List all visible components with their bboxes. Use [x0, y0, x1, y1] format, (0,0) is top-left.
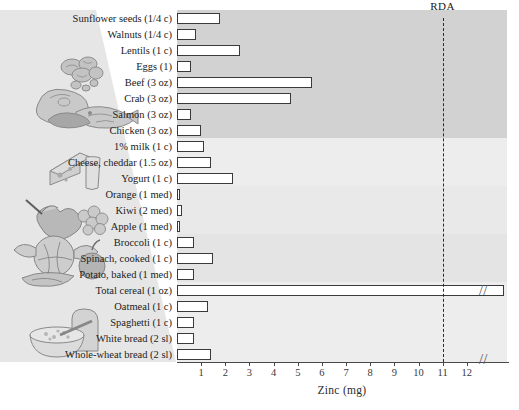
band-vegetables	[177, 234, 507, 282]
x-axis	[177, 362, 509, 363]
category-label: Orange (1 med)	[106, 189, 172, 200]
bar	[177, 93, 291, 104]
category-label: Potato, baked (1 med)	[79, 269, 172, 280]
bar	[177, 61, 191, 72]
x-tick-label: 8	[368, 367, 373, 378]
bar	[177, 221, 180, 232]
rda-line	[443, 18, 444, 362]
category-label: Oatmeal (1 c)	[114, 301, 172, 312]
category-label: Broccoli (1 c)	[114, 237, 172, 248]
bar	[177, 125, 201, 136]
category-label: Beef (3 oz)	[125, 77, 172, 88]
x-tick	[322, 362, 323, 366]
category-label: Salmon (3 oz)	[113, 109, 173, 120]
category-label: 1% milk (1 c)	[114, 141, 172, 152]
plot-area: // RDA 123456789101112 Zinc (mg) //	[177, 10, 507, 362]
x-tick-label: 12	[462, 367, 473, 378]
bar	[177, 301, 208, 312]
category-label: Apple (1 med)	[111, 221, 172, 232]
x-tick-label: 2	[223, 367, 228, 378]
zinc-content-chart: Sunflower seeds (1/4 c)Walnuts (1/4 c)Le…	[0, 0, 519, 410]
bar	[177, 333, 194, 344]
category-label: White bread (2 sl)	[96, 333, 172, 344]
bar	[177, 141, 204, 152]
rda-label: RDA	[430, 0, 455, 12]
bar	[177, 173, 233, 184]
category-label: Spinach, cooked (1 c)	[80, 253, 172, 264]
category-labels: Sunflower seeds (1/4 c)Walnuts (1/4 c)Le…	[0, 10, 175, 362]
category-label: Kiwi (2 med)	[115, 205, 172, 216]
bar	[177, 285, 504, 296]
bar	[177, 29, 196, 40]
x-tick-label: 7	[343, 367, 348, 378]
category-label: Sunflower seeds (1/4 c)	[73, 13, 172, 24]
x-tick	[298, 362, 299, 366]
band-fruits	[177, 186, 507, 234]
x-tick-label: 9	[392, 367, 397, 378]
category-label: Cheese, cheddar (1.5 oz)	[68, 157, 172, 168]
x-tick	[467, 362, 468, 366]
category-label: Walnuts (1/4 c)	[108, 29, 172, 40]
bar	[177, 317, 194, 328]
x-tick-label: 6	[319, 367, 324, 378]
bar	[177, 13, 220, 24]
category-label: Chicken (3 oz)	[110, 125, 172, 136]
band-protein-foods	[177, 10, 507, 138]
bar	[177, 189, 180, 200]
x-tick	[225, 362, 226, 366]
x-tick-label: 3	[247, 367, 252, 378]
category-label: Crab (3 oz)	[124, 93, 172, 104]
x-tick-label: 5	[295, 367, 300, 378]
x-tick	[249, 362, 250, 366]
bar	[177, 109, 191, 120]
x-tick	[394, 362, 395, 366]
bar	[177, 349, 211, 360]
bar	[177, 157, 211, 168]
x-axis-title: Zinc (mg)	[177, 384, 507, 396]
category-label: Total cereal (1 oz)	[95, 285, 172, 296]
category-label: Yogurt (1 c)	[121, 173, 172, 184]
bar	[177, 45, 240, 56]
bar	[177, 77, 312, 88]
category-label: Lentils (1 c)	[121, 45, 172, 56]
bar	[177, 253, 213, 264]
category-label: Eggs (1)	[136, 61, 172, 72]
x-tick-label: 10	[413, 367, 424, 378]
category-label: Spaghetti (1 c)	[110, 317, 172, 328]
x-tick	[419, 362, 420, 366]
x-tick-label: 11	[438, 367, 448, 378]
bar	[177, 205, 182, 216]
bar	[177, 269, 194, 280]
bar-break-glyph: //	[479, 282, 487, 299]
x-tick	[443, 362, 444, 366]
x-tick	[201, 362, 202, 366]
bar	[177, 237, 194, 248]
x-tick-label: 1	[199, 367, 204, 378]
x-tick	[274, 362, 275, 366]
x-tick-label: 4	[271, 367, 276, 378]
x-tick	[370, 362, 371, 366]
axis-break-glyph: //	[479, 351, 487, 368]
category-label: Whole-wheat bread (2 sl)	[65, 349, 172, 360]
x-tick	[346, 362, 347, 366]
